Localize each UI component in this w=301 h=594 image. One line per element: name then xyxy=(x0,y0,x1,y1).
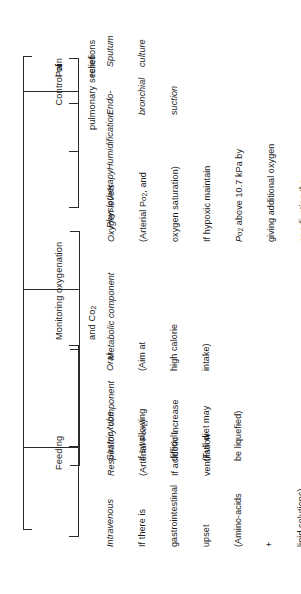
intravenous-detail-line6: lipid solutions) xyxy=(296,485,301,547)
node-oral: Oral (Aim at high calorie intake) xyxy=(84,324,233,371)
gastric-detail-line2: difficult xyxy=(169,406,180,461)
sputum-title-line2: culture xyxy=(137,35,148,67)
secretions-label-line1: Control of xyxy=(54,40,65,130)
diagram-stage: Control of pulmonary secretions Monitori… xyxy=(0,0,301,594)
intravenous-title: Intravenous xyxy=(105,485,116,547)
po2-subscript-2: 2 xyxy=(237,228,244,232)
trunk-line xyxy=(23,56,24,530)
intravenous-detail-line4: (Amino-acids xyxy=(233,485,244,547)
trunk-cap-bottom xyxy=(23,56,32,57)
gastric-detail-line3: (Full diet may xyxy=(201,406,212,461)
node-oxygen-levels: Oxygen levels (Arterial Po2, and oxygen … xyxy=(85,144,301,242)
diagram-canvas: Control of pulmonary secretions Monitori… xyxy=(0,0,301,594)
monitoring-bracket-cap-right xyxy=(70,231,80,232)
monitoring-label-line1: Monitoring oxygenation xyxy=(54,242,65,340)
po2-italic-3: o xyxy=(235,231,244,235)
intravenous-detail-line5: + xyxy=(264,485,275,547)
po2-subscript-1: 2 xyxy=(141,193,148,197)
oxygen-detail-line6: or adjusting the xyxy=(298,144,301,242)
intravenous-detail-line1: If there is xyxy=(137,485,148,547)
po2-italic-2: P xyxy=(234,236,244,242)
gastric-detail-line1: If swallowing xyxy=(137,406,148,461)
oral-detail-line2: high calorie xyxy=(169,324,180,371)
feeding-bracket-cap-right xyxy=(69,345,79,346)
secretions-bracket-tick-1 xyxy=(69,151,79,152)
oral-detail-line3: intake) xyxy=(201,324,212,371)
oxygen-detail-line1: (Arterial Po2, and xyxy=(138,144,149,242)
oxygen-detail-line2: oxygen saturation) xyxy=(170,144,181,242)
node-sputum-culture: Sputum culture xyxy=(84,35,169,67)
oxygen-title: Oxygen levels xyxy=(106,144,117,242)
oral-detail-line1: (Aim at xyxy=(137,324,148,371)
intravenous-detail-line2: gastrointestinal xyxy=(169,485,180,547)
oral-title: Oral xyxy=(105,324,116,371)
intravenous-detail-line3: upset xyxy=(201,485,212,547)
oxygen-detail-line3: If hypoxic maintain xyxy=(202,144,213,242)
po2-italic-1: o xyxy=(139,196,148,200)
node-endobronchial-suction: Endo- bronchial suction xyxy=(84,78,201,115)
endobronchial-title-line2: bronchial xyxy=(137,78,148,115)
pain-label-line1: Pain xyxy=(54,56,65,77)
node-feeding: Feeding xyxy=(32,436,87,470)
node-intravenous: Intravenous If there is gastrointestinal… xyxy=(84,485,301,547)
feeding-label: Feeding xyxy=(54,436,65,470)
trunk-cap-top xyxy=(23,529,32,530)
feeding-bracket-cap-left xyxy=(69,536,79,537)
secretions-bracket-cap-left xyxy=(69,207,79,208)
oxygen-detail-line4: Po2 above 10.7 kPa by xyxy=(234,144,245,242)
endobronchial-title-line3: suction xyxy=(169,78,180,115)
sputum-title-line1: Sputum xyxy=(105,35,116,67)
endobronchial-title-line1: Endo- xyxy=(105,78,116,115)
oxygen-detail-line5: giving additional oxygen xyxy=(266,144,277,242)
node-gastric-tube: Gastric tube If swallowing difficult (Fu… xyxy=(84,406,264,461)
gastric-detail-line4: be liquefied) xyxy=(233,406,244,461)
gastric-title: Gastric tube xyxy=(105,406,116,461)
